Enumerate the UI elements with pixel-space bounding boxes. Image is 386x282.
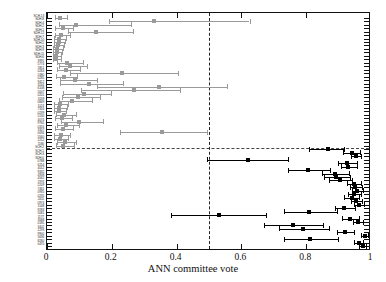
error-bar-cap <box>61 119 62 124</box>
error-bar-cap <box>56 143 57 148</box>
error-bar-cap <box>61 57 62 62</box>
data-point-marker <box>87 82 91 86</box>
y-axis-tick <box>47 52 52 53</box>
y-axis-tick <box>364 25 369 26</box>
error-bar-cap <box>309 147 310 152</box>
y-axis-tick <box>47 25 52 26</box>
y-axis-tick <box>364 90 369 91</box>
y-axis-tick <box>364 42 369 43</box>
error-bar-cap <box>92 98 93 103</box>
data-point-marker <box>301 227 305 231</box>
error-bar-cap <box>344 147 345 152</box>
error-bar-cap <box>64 43 65 48</box>
error-bar-cap <box>74 143 75 148</box>
y-axis-tick <box>364 21 369 22</box>
y-axis-tick <box>47 80 52 81</box>
data-point-marker <box>246 158 250 162</box>
y-axis-tick <box>364 63 369 64</box>
y-axis-tick <box>364 167 369 168</box>
y-axis-tick <box>364 122 369 123</box>
data-point-marker <box>74 23 78 27</box>
y-axis-tick <box>47 135 52 136</box>
data-point-marker <box>343 230 347 234</box>
y-axis-tick <box>364 142 369 143</box>
x-axis-tick <box>306 244 307 249</box>
error-bar-cap <box>65 39 66 44</box>
error-bar-cap <box>55 126 56 131</box>
y-axis-tick-label: 0470 <box>38 244 44 247</box>
y-axis-tick <box>364 56 369 57</box>
y-axis-tick <box>47 111 52 112</box>
y-axis-tick <box>364 104 369 105</box>
y-axis-tick <box>47 198 52 199</box>
error-bar-cap <box>361 154 362 159</box>
data-point-marker <box>342 206 346 210</box>
data-point-marker <box>354 154 358 158</box>
y-axis-tick <box>47 177 52 178</box>
x-axis-tick <box>306 13 307 18</box>
y-axis-tick <box>364 49 369 50</box>
error-bar-cap <box>337 230 338 235</box>
error-bar-cap <box>363 220 364 225</box>
error-bar-cap <box>338 237 339 242</box>
error-bar <box>59 101 92 102</box>
data-point-marker <box>306 168 310 172</box>
error-bar-cap <box>357 164 358 169</box>
y-axis-tick <box>47 70 52 71</box>
y-axis-tick <box>47 84 52 85</box>
error-bar-cap <box>55 26 56 31</box>
y-axis-tick <box>364 201 369 202</box>
x-axis-tick-label: 0 <box>44 252 49 262</box>
y-axis-tick <box>47 77 52 78</box>
y-axis-tick <box>47 122 52 123</box>
data-point-marker <box>346 165 350 169</box>
x-axis-tick <box>112 244 113 249</box>
error-bar-cap <box>103 119 104 124</box>
error-bar-cap <box>207 157 208 162</box>
y-axis-tick <box>47 90 52 91</box>
error-bar-cap <box>337 209 338 214</box>
error-bar-cap <box>66 36 67 41</box>
data-point-marker <box>120 71 124 75</box>
error-bar-cap <box>67 15 68 20</box>
y-axis-tick <box>47 108 52 109</box>
error-bar-cap <box>284 209 285 214</box>
x-axis-tick <box>241 13 242 18</box>
error-bar <box>57 70 80 71</box>
y-axis-tick <box>364 191 369 192</box>
error-bar-cap <box>56 112 57 117</box>
error-bar-cap <box>120 130 121 135</box>
y-axis-tick <box>364 101 369 102</box>
error-bar-cap <box>354 240 355 245</box>
y-axis-tick <box>47 139 52 140</box>
y-axis-tick <box>364 135 369 136</box>
y-axis-tick <box>47 66 52 67</box>
y-axis-tick <box>47 222 52 223</box>
error-bar-cap <box>180 88 181 93</box>
error-bar-cap <box>355 206 356 211</box>
error-bar-cap <box>131 22 132 27</box>
y-axis-tick <box>47 225 52 226</box>
y-axis-tick <box>47 239 52 240</box>
error-bar-cap <box>77 74 78 79</box>
error-bar-cap <box>123 81 124 86</box>
error-bar <box>70 73 179 74</box>
y-axis-tick <box>47 28 52 29</box>
error-bar-cap <box>264 223 265 228</box>
error-bar-cap <box>344 195 345 200</box>
y-axis-tick <box>364 111 369 112</box>
y-axis-tick <box>47 174 52 175</box>
error-bar-cap <box>83 60 84 65</box>
y-axis-tick <box>364 132 369 133</box>
data-point-marker <box>326 147 330 151</box>
y-axis-tick <box>364 177 369 178</box>
data-point-marker <box>61 127 65 131</box>
error-bar <box>62 97 101 98</box>
y-axis-tick <box>364 153 369 154</box>
error-bar-cap <box>250 19 251 24</box>
error-bar-cap <box>359 195 360 200</box>
error-bar-cap <box>57 123 58 128</box>
y-axis-tick <box>47 101 52 102</box>
decision-threshold-line <box>209 13 210 249</box>
y-axis-tick <box>47 243 52 244</box>
